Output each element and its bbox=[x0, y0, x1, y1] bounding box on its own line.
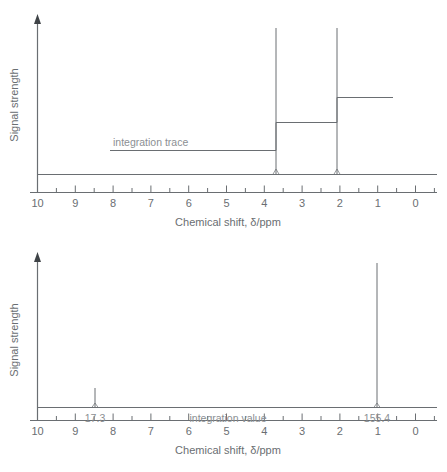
bottom-xtick-7: 7 bbox=[148, 425, 154, 437]
bottom-integration-value-label: integration value bbox=[189, 412, 266, 424]
bottom-y-axis-title: Signal strength bbox=[8, 303, 20, 376]
bottom-xtick-3: 3 bbox=[299, 425, 305, 437]
top-x-tick-labels: 10 9 8 7 6 5 4 3 2 1 0 bbox=[31, 197, 418, 209]
top-xtick-3: 3 bbox=[299, 197, 305, 209]
bottom-xtick-2: 2 bbox=[337, 425, 343, 437]
bottom-xtick-5: 5 bbox=[223, 425, 229, 437]
top-xtick-2: 2 bbox=[337, 197, 343, 209]
top-xtick-8: 8 bbox=[110, 197, 116, 209]
bottom-xtick-10: 10 bbox=[31, 425, 43, 437]
top-peak-3-65 bbox=[273, 28, 279, 175]
top-y-axis-title: Signal strength bbox=[8, 68, 20, 141]
bottom-y-axis bbox=[34, 252, 41, 420]
top-xtick-0: 0 bbox=[412, 197, 418, 209]
top-xtick-5: 5 bbox=[223, 197, 229, 209]
top-y-axis bbox=[34, 14, 41, 192]
top-spectrum-panel: 10 9 8 7 6 5 4 3 2 1 0 Chemical shift, δ… bbox=[0, 0, 447, 236]
bottom-xtick-6: 6 bbox=[186, 425, 192, 437]
bottom-integration-value-1: 17.3 bbox=[85, 412, 106, 424]
bottom-spectrum-panel: 10 9 8 7 6 5 4 3 2 1 0 Chemical shift, δ… bbox=[0, 236, 447, 472]
bottom-x-tick-labels: 10 9 8 7 6 5 4 3 2 1 0 bbox=[31, 425, 418, 437]
bottom-x-axis-title: Chemical shift, δ/ppm bbox=[175, 444, 281, 456]
bottom-xtick-1: 1 bbox=[375, 425, 381, 437]
top-xtick-7: 7 bbox=[148, 197, 154, 209]
top-xtick-4: 4 bbox=[261, 197, 267, 209]
bottom-peak-1-1 bbox=[374, 263, 380, 408]
top-xtick-1: 1 bbox=[375, 197, 381, 209]
top-y-axis-arrowhead bbox=[34, 14, 41, 24]
bottom-spectrum-svg: 10 9 8 7 6 5 4 3 2 1 0 Chemical shift, δ… bbox=[0, 236, 447, 472]
top-xtick-6: 6 bbox=[186, 197, 192, 209]
bottom-y-axis-arrowhead bbox=[34, 252, 41, 262]
top-integration-trace-label: integration trace bbox=[113, 136, 188, 148]
nmr-figure: 10 9 8 7 6 5 4 3 2 1 0 Chemical shift, δ… bbox=[0, 0, 447, 472]
top-xtick-10: 10 bbox=[31, 197, 43, 209]
bottom-integration-value-2: 155.4 bbox=[364, 412, 390, 424]
top-x-axis-title: Chemical shift, δ/ppm bbox=[175, 216, 281, 228]
bottom-peak-8-3 bbox=[92, 388, 98, 408]
bottom-xtick-9: 9 bbox=[72, 425, 78, 437]
top-xtick-9: 9 bbox=[72, 197, 78, 209]
bottom-xtick-4: 4 bbox=[261, 425, 267, 437]
bottom-xtick-0: 0 bbox=[412, 425, 418, 437]
bottom-xtick-8: 8 bbox=[110, 425, 116, 437]
top-spectrum-svg: 10 9 8 7 6 5 4 3 2 1 0 Chemical shift, δ… bbox=[0, 0, 447, 236]
